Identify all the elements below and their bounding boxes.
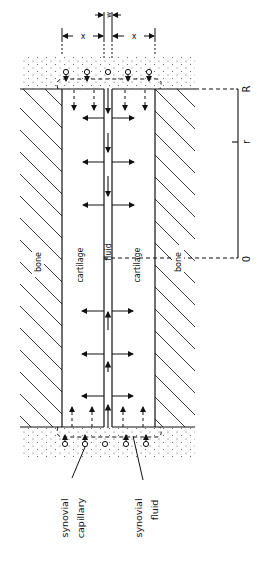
label-fluid: fluid xyxy=(104,243,113,260)
cartilage-diagram: x x w R r 0 bone cartilage fluid cartila… xyxy=(0,0,257,571)
diffusion-arrows-top xyxy=(74,90,145,110)
callout-synovial-fluid-line2: fluid xyxy=(149,500,160,521)
label-bone-left: bone xyxy=(34,252,43,272)
dim-label-x-left: x xyxy=(81,32,86,41)
dim-label-w: w xyxy=(105,12,113,18)
dim-label-x-right: x xyxy=(132,32,137,41)
label-cartilage-right: cartilage xyxy=(133,247,142,282)
callout-synovial-capillary-line1: synovial xyxy=(59,498,70,537)
callout-synovial-fluid-line1: synovial xyxy=(133,498,144,537)
dimension-guides xyxy=(62,12,155,60)
axis-label-R: R xyxy=(241,85,252,92)
axis-label-r: r xyxy=(241,139,252,144)
synovium-bottom xyxy=(20,427,195,457)
axis-label-0: 0 xyxy=(241,256,252,262)
label-bone-right: bone xyxy=(174,252,183,272)
label-cartilage-left: cartilage xyxy=(76,247,85,282)
callout-synovial-capillary-line2: capillary xyxy=(75,497,86,538)
